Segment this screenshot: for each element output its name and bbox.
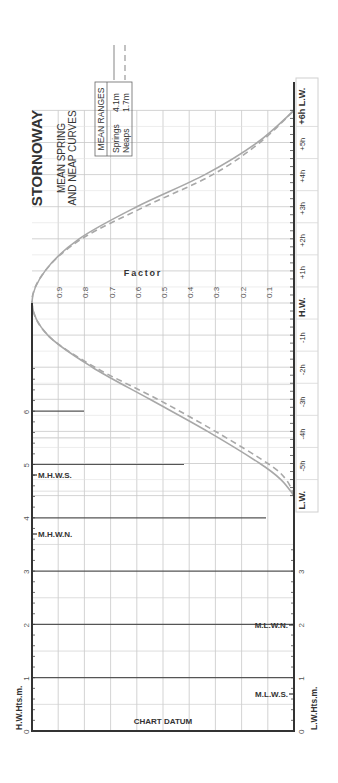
legend: MEAN RANGES Springs 4.1m Neaps 1.7m: [95, 45, 132, 156]
chart-subtitle-2: AND NEAP CURVES: [67, 110, 78, 206]
hw-height-tick-label: 5: [22, 463, 31, 468]
mhws-marker: M.H.W.S.: [32, 471, 72, 480]
subtitle-2-group: AND NEAP CURVES: [67, 110, 78, 206]
hour-tick-group: -4h: [298, 429, 307, 440]
hw-axis-label-group: H.W.Hts.m.: [14, 686, 24, 730]
factor-tick-label: 0.7: [108, 286, 117, 298]
hour-tick-group: +5h: [298, 138, 307, 151]
factor-tick-label: 0.6: [134, 286, 143, 298]
mhwn-label: M.H.W.N.: [38, 530, 72, 539]
hour-tick-label: -4h: [298, 429, 307, 440]
legend-neaps-value-group: 1.7m: [121, 93, 131, 112]
hour-tick-label: -2h: [298, 364, 307, 375]
factor-tick-label: 0.8: [81, 286, 90, 298]
lw-height-tick-group: 2: [297, 622, 306, 627]
factor-tick-group: 0.9: [55, 286, 64, 298]
hour-tick-group: -2h: [298, 364, 307, 375]
mlws-marker: M.L.W.S.: [255, 690, 294, 699]
hour-tick-label: -1h: [298, 332, 307, 343]
hw-height-tick-group: 4: [22, 516, 31, 521]
subtitle-1-group: MEAN SPRING: [56, 123, 67, 193]
hour-tick-group: -1h: [298, 332, 307, 343]
hour-tick-label: -5h: [298, 461, 307, 472]
mhws-label: M.H.W.S.: [38, 471, 72, 480]
factor-axis-label: Factor: [124, 268, 162, 278]
hour-tick-labels: L.W.-5h-4h-3h-2h-1hH.W.+1h+2h+3h+4h+5h+6…: [297, 88, 307, 510]
factor-tick-group: 0.5: [160, 286, 169, 298]
lw-height-tick-group: 1: [297, 676, 306, 681]
chart-title: STORNOWAY: [28, 110, 45, 207]
hw-height-tick-group: 1: [22, 676, 31, 681]
hour-tick-group: +2h: [298, 234, 307, 247]
hw-height-tick-group: 6: [22, 409, 31, 414]
mhwn-marker: M.H.W.N.: [32, 530, 72, 539]
chart-subtitle-1: MEAN SPRING: [56, 123, 67, 193]
hour-tick-group: H.W.: [297, 298, 307, 318]
factor-tick-group: 0.1: [265, 286, 274, 298]
factor-grid: [58, 110, 268, 731]
mlwn-label: M.L.W.N.: [255, 621, 288, 630]
legend-neaps-label: Neaps: [121, 128, 131, 153]
factor-tick-group: 0.6: [134, 286, 143, 298]
hour-tick-label: L.W.: [297, 491, 307, 510]
lw-height-tick-label: 3: [297, 569, 306, 574]
hw-height-tick-label: 2: [22, 622, 31, 627]
lw-height-tick-label: 0: [297, 729, 306, 734]
hw-height-tick-label: 6: [22, 409, 31, 414]
hour-tick-label: +5h: [298, 138, 307, 151]
hour-tick-label: +6h L.W.: [297, 88, 307, 125]
hour-tick-label: +2h: [298, 234, 307, 247]
hour-tick-label: -3h: [298, 396, 307, 407]
hour-tick-label: +4h: [298, 170, 307, 183]
hour-tick-label: +1h: [298, 266, 307, 279]
legend-springs-value: 4.1m: [111, 93, 121, 112]
factor-tick-label: 0.5: [160, 286, 169, 298]
lw-height-tick-label: 2: [297, 622, 306, 627]
factor-label-group: Factor: [124, 268, 162, 278]
lw-height-tick-label: 1: [297, 676, 306, 681]
tidal-curve-chart: STORNOWAY MEAN SPRING AND NEAP CURVES ME…: [0, 0, 338, 783]
mlws-label: M.L.W.S.: [255, 690, 288, 699]
factor-tick-label: 0.3: [212, 286, 221, 298]
legend-springs-value-group: 4.1m: [111, 93, 121, 112]
hw-height-tick-label: 4: [22, 516, 31, 521]
hour-tick-group: -5h: [298, 461, 307, 472]
factor-tick-group: 0.3: [212, 286, 221, 298]
legend-springs-group: Springs: [111, 124, 121, 153]
legend-springs-label: Springs: [111, 124, 121, 153]
hour-tick-group: +4h: [298, 170, 307, 183]
factor-tick-group: 0.4: [186, 286, 195, 298]
legend-header: MEAN RANGES: [96, 87, 106, 150]
factor-tick-label: 0.1: [265, 286, 274, 298]
hour-tick-label: +3h: [298, 202, 307, 215]
factor-tick-group: 0.2: [239, 286, 248, 298]
hour-tick-group: -3h: [298, 396, 307, 407]
hw-height-tick-group: 2: [22, 622, 31, 627]
legend-header-group: MEAN RANGES: [96, 87, 106, 150]
hour-tick-group: +1h: [298, 266, 307, 279]
factor-tick-labels: 0.10.20.30.40.50.60.70.80.9: [55, 286, 274, 298]
hw-height-tick-group: 3: [22, 569, 31, 574]
hw-height-tick-label: 1: [22, 676, 31, 681]
lw-height-tick-group: 3: [297, 569, 306, 574]
factor-tick-group: 0.8: [81, 286, 90, 298]
legend-neaps-value: 1.7m: [121, 93, 131, 112]
title-block: STORNOWAY: [28, 110, 45, 207]
hw-height-tick-group: 5: [22, 463, 31, 468]
hour-tick-label: H.W.: [297, 298, 307, 318]
mlwn-marker: M.L.W.N.: [255, 621, 294, 630]
factor-tick-label: 0.4: [186, 286, 195, 298]
factor-tick-label: 0.2: [239, 286, 248, 298]
hw-height-tick-label: 3: [22, 569, 31, 574]
hour-tick-group: L.W.: [297, 491, 307, 510]
legend-neaps-group: Neaps: [121, 128, 131, 153]
lw-axis-label-group: L.W.Hts.m.: [309, 687, 319, 730]
hour-tick-group: +6h L.W.: [297, 88, 307, 125]
chart-datum-label: CHART DATUM: [134, 717, 193, 726]
lw-height-tick-group: 0: [297, 729, 306, 734]
lw-heights-axis-label: L.W.Hts.m.: [309, 687, 319, 730]
hour-tick-group: +3h: [298, 202, 307, 215]
hw-heights-axis-label: H.W.Hts.m.: [14, 686, 24, 730]
factor-tick-group: 0.7: [108, 286, 117, 298]
factor-tick-label: 0.9: [55, 286, 64, 298]
